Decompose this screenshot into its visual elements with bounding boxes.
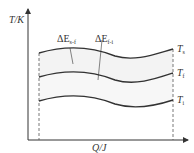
x-axis-label: Q/J: [92, 143, 106, 153]
curve-label-ti: Ti: [177, 95, 184, 106]
curve-label-tf: Tf: [177, 68, 185, 79]
diagram-graphic: [0, 0, 194, 153]
annotation-delta-e-s-f: ΔEs-f: [57, 34, 76, 45]
annotation-delta-e-f-i: ΔEf-i: [95, 34, 113, 45]
curve-label-ts: Ts: [177, 44, 185, 55]
y-axis-label: T/K: [9, 15, 24, 25]
temperature-heat-diagram: T/K Q/J ΔEs-f ΔEf-i Ts Tf Ti: [0, 0, 194, 153]
